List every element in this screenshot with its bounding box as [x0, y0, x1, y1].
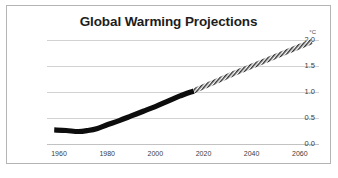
x-tick-label-2020: 2020: [196, 150, 212, 158]
series-observed-line: [54, 91, 194, 132]
x-tick-label-2060: 2060: [292, 150, 308, 158]
data-series-svg: [47, 40, 319, 144]
chart-title: Global Warming Projections: [7, 14, 330, 29]
plot-area: °C 2.0 1.5 1.0 0.5 0.0 1960 1980 2000 20…: [47, 40, 319, 144]
axis-line-x: [47, 144, 319, 145]
x-tick-label-2000: 2000: [148, 150, 164, 158]
chart-figure: Global Warming Projections °C 2.0 1.5 1.…: [6, 5, 331, 164]
x-tick-label-1960: 1960: [51, 150, 67, 158]
x-tick-label-2040: 2040: [244, 150, 260, 158]
x-tick-label-1980: 1980: [99, 150, 115, 158]
